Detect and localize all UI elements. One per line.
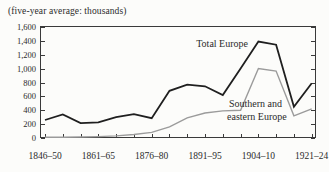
emigration-line-chart: 02004006008001,0001,2001,4001,6001846–50…	[0, 0, 329, 172]
southern-and-eastern-europe-label: eastern Europe	[227, 111, 287, 122]
total-europe-label: Total Europe	[196, 38, 248, 49]
y-axis-tick-label: 1,600	[17, 22, 36, 32]
x-axis-tick-label: 1904–10	[242, 151, 276, 161]
y-axis-tick-label: 1,200	[17, 50, 36, 60]
y-axis-tick-label: 1,400	[17, 36, 36, 46]
y-axis-tick-label: 0	[32, 133, 36, 143]
y-axis-tick-label: 400	[23, 105, 36, 115]
y-axis-tick-label: 800	[23, 78, 36, 88]
y-axis-tick-label: 1,000	[17, 64, 36, 74]
x-axis-tick-label: 1891–95	[188, 151, 222, 161]
y-axis-tick-label: 200	[23, 119, 36, 129]
x-axis-tick-label: 1861–65	[82, 151, 116, 161]
southern-and-eastern-europe-label: Southern and	[229, 98, 282, 109]
x-axis-tick-label: 1846–50	[28, 151, 62, 161]
y-axis-tick-label: 600	[23, 91, 36, 101]
x-axis-tick-label: 1876–80	[135, 151, 169, 161]
emigration-chart-page: (five-year average: thousands) 020040060…	[0, 0, 329, 172]
x-axis-tick-label: 1921–24	[295, 151, 329, 161]
